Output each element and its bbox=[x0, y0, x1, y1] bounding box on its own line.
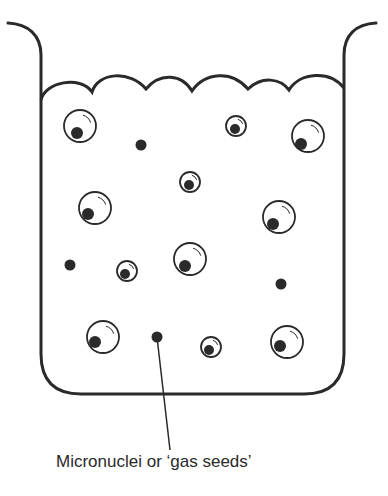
bubble bbox=[180, 172, 200, 192]
bubble bbox=[292, 120, 324, 152]
bubble bbox=[263, 201, 295, 233]
micronucleus bbox=[136, 140, 147, 151]
bubble bbox=[87, 321, 119, 353]
micronucleus bbox=[65, 260, 76, 271]
liquid-surface bbox=[41, 75, 344, 100]
bubble bbox=[174, 243, 206, 275]
bubble bbox=[64, 110, 96, 142]
bubble bbox=[117, 261, 137, 281]
beaker-diagram bbox=[0, 0, 388, 496]
bubble bbox=[226, 116, 246, 136]
bubble bbox=[79, 192, 111, 224]
micronuclei-label: Micronuclei or ‘gas seeds’ bbox=[56, 452, 252, 472]
micronuclei-group bbox=[65, 140, 287, 343]
bubble bbox=[271, 326, 303, 358]
bubbles-group bbox=[64, 110, 324, 358]
beaker-outline bbox=[8, 23, 376, 394]
micronucleus bbox=[276, 279, 287, 290]
bubble bbox=[201, 337, 221, 357]
